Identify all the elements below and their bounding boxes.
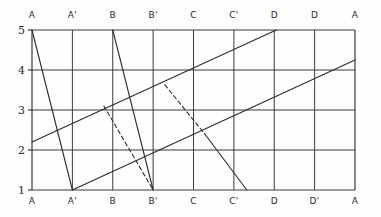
x-axis-bottom-label: B: [110, 196, 116, 206]
x-axis-top-label: A: [29, 10, 35, 20]
y-axis-label: 2: [18, 144, 30, 157]
data-series-line: [104, 106, 153, 190]
y-axis-label: 4: [18, 64, 30, 77]
y-axis-label: 3: [18, 104, 30, 117]
grid-lines: [32, 30, 355, 190]
x-axis-bottom-label: A: [352, 196, 358, 206]
chart-figure: AA'BB'CC'DDA AA'BB'CC'DD'A 54321: [0, 0, 381, 217]
data-series-line: [32, 30, 276, 142]
x-axis-top-label: B': [149, 10, 158, 20]
x-axis-top-label: A': [68, 10, 77, 20]
y-axis-label: 5: [18, 24, 30, 37]
x-axis-top-label: C: [190, 10, 197, 20]
x-axis-bottom-label: B': [149, 196, 158, 206]
x-axis-top-label: B: [110, 10, 116, 20]
chart-plot-area: [0, 0, 381, 217]
x-axis-top-label: A: [352, 10, 358, 20]
x-axis-bottom-label: C': [229, 196, 238, 206]
x-axis-top-label: D: [271, 10, 278, 20]
x-axis-bottom-label: C: [190, 196, 197, 206]
x-axis-top-label: D: [311, 10, 318, 20]
x-axis-bottom-label: A: [29, 196, 35, 206]
y-axis-label: 1: [18, 184, 30, 197]
x-axis-bottom-label: A': [68, 196, 77, 206]
x-axis-bottom-label: D: [271, 196, 278, 206]
data-series-line: [205, 134, 247, 190]
x-axis-top-label: C': [229, 10, 238, 20]
data-series-line: [165, 85, 205, 134]
x-axis-bottom-label: D': [310, 196, 320, 206]
